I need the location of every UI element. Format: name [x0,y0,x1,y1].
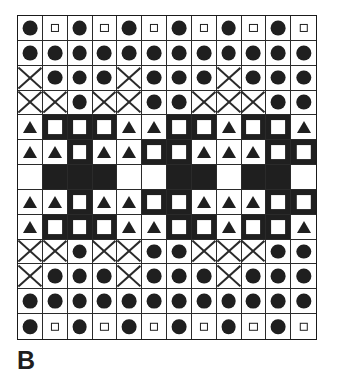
filled-circle-cell [68,289,93,314]
filled-circle-icon [271,70,286,85]
filled-circle-cell [68,240,93,265]
blank-cell [18,165,43,190]
diagonal-cross-icon [117,91,141,115]
open-square-icon [150,24,158,32]
white-square-cell [68,115,93,140]
white-square-icon [197,220,211,234]
open-square-cell [192,314,217,339]
open-square-cell [142,16,167,41]
cross-cell [43,91,68,116]
cross-cell [192,240,217,265]
white-square-cell [167,115,192,140]
filled-triangle-cell [217,215,242,240]
white-square-cell [266,190,291,215]
filled-triangle-icon [222,121,236,133]
filled-circle-icon [147,45,162,60]
cross-cell [217,66,242,91]
filled-circle-icon [72,70,87,85]
filled-triangle-cell [242,190,267,215]
cross-cell [242,240,267,265]
open-square-icon [100,24,108,32]
white-square-icon [197,120,211,134]
diagonal-cross-icon [217,240,241,264]
open-square-cell [192,16,217,41]
blank-cell [93,165,118,190]
white-square-cell [68,190,93,215]
filled-circle-icon [221,319,236,334]
blank-cell [217,165,242,190]
filled-triangle-icon [147,221,161,233]
filled-circle-icon [172,70,187,85]
filled-circle-cell [142,91,167,116]
white-square-icon [271,220,285,234]
white-square-icon [98,220,112,234]
filled-circle-icon [296,45,311,60]
filled-circle-icon [271,244,286,259]
open-square-icon [150,322,158,330]
filled-triangle-cell [117,190,142,215]
filled-circle-cell [142,66,167,91]
filled-triangle-cell [217,140,242,165]
filled-triangle-icon [222,146,236,158]
filled-circle-cell [192,289,217,314]
filled-circle-cell [192,66,217,91]
cross-cell [43,240,68,265]
filled-circle-cell [142,289,167,314]
filled-triangle-cell [192,140,217,165]
white-square-icon [172,220,186,234]
filled-triangle-cell [117,215,142,240]
white-square-icon [73,145,87,159]
filled-triangle-icon [23,221,37,233]
filled-circle-cell [242,66,267,91]
filled-circle-icon [172,244,187,259]
filled-circle-cell [192,41,217,66]
diagonal-cross-icon [242,91,266,115]
white-square-cell [242,215,267,240]
blank-cell [142,165,167,190]
filled-circle-icon [246,70,261,85]
white-square-cell [242,115,267,140]
blank-cell [117,165,142,190]
white-square-cell [291,140,316,165]
filled-circle-cell [266,289,291,314]
cross-cell [18,91,43,116]
white-square-icon [73,220,87,234]
filled-circle-cell [217,16,242,41]
filled-triangle-icon [48,146,62,158]
diagonal-cross-icon [217,264,241,288]
filled-circle-icon [271,45,286,60]
white-square-cell [43,215,68,240]
filled-circle-cell [93,289,118,314]
filled-circle-icon [172,294,187,309]
filled-circle-cell [68,41,93,66]
diagonal-cross-icon [217,66,241,90]
filled-circle-icon [221,294,236,309]
filled-triangle-icon [48,196,62,208]
open-square-cell [291,314,316,339]
filled-triangle-icon [122,121,136,133]
filled-circle-icon [122,319,137,334]
filled-circle-icon [271,269,286,284]
white-square-icon [271,145,285,159]
filled-circle-icon [122,21,137,36]
white-square-cell [142,140,167,165]
filled-circle-cell [291,41,316,66]
filled-circle-icon [246,294,261,309]
filled-circle-cell [18,289,43,314]
white-square-icon [73,120,87,134]
filled-circle-icon [47,45,62,60]
filled-triangle-icon [122,221,136,233]
filled-circle-cell [68,16,93,41]
filled-triangle-cell [217,115,242,140]
open-square-cell [93,16,118,41]
filled-circle-icon [72,269,87,284]
filled-triangle-cell [18,215,43,240]
diagonal-cross-icon [93,91,117,115]
white-square-icon [247,120,261,134]
figure-caption: B [17,349,35,371]
open-square-icon [299,24,307,32]
filled-triangle-cell [291,215,316,240]
white-square-icon [296,145,310,159]
cross-cell [117,66,142,91]
white-square-cell [291,190,316,215]
